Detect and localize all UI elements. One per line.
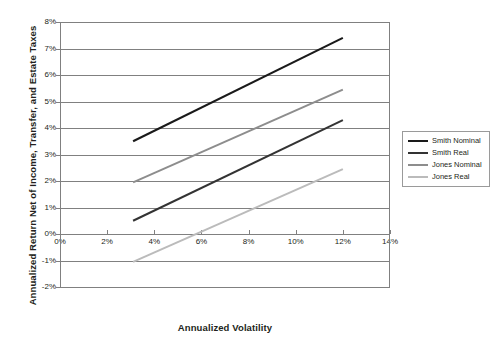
legend-item[interactable]: Jones Real <box>405 171 487 183</box>
y-tick-label: 4% <box>30 124 56 132</box>
y-tick-label: -2% <box>30 283 56 291</box>
tick-mark-x <box>390 230 391 234</box>
plot-area <box>60 22 390 287</box>
y-tick-label: 3% <box>30 151 56 159</box>
series-lines <box>60 22 390 287</box>
y-tick-label: 6% <box>30 71 56 79</box>
series-line <box>133 38 343 141</box>
legend-swatch-line-icon <box>408 164 428 166</box>
legend-label: Jones Nominal <box>432 161 482 169</box>
y-tick-label: 8% <box>30 18 56 26</box>
grid-line-y <box>60 287 390 288</box>
legend-item[interactable]: Smith Nominal <box>405 135 487 147</box>
legend-label: Jones Real <box>432 173 470 181</box>
y-tick-label: -1% <box>30 257 56 265</box>
y-tick-label: 1% <box>30 204 56 212</box>
legend-item[interactable]: Smith Real <box>405 147 487 159</box>
legend-label: Smith Real <box>432 149 469 157</box>
legend-label: Smith Nominal <box>432 137 481 145</box>
legend-swatch-line-icon <box>408 140 428 142</box>
x-axis-title: Annualized Volatility <box>60 322 390 333</box>
legend-swatch-line-icon <box>408 152 428 154</box>
series-line <box>133 169 343 262</box>
y-tick-label: 0% <box>30 230 56 238</box>
y-tick-label: 2% <box>30 177 56 185</box>
chart-legend: Smith NominalSmith RealJones NominalJone… <box>402 131 490 187</box>
chart-container: Annualized Return Net of Income, Transfe… <box>0 0 494 348</box>
legend-swatch-line-icon <box>408 176 428 178</box>
y-tick-label: 7% <box>30 45 56 53</box>
y-axis-title: Annualized Return Net of Income, Transfe… <box>27 16 38 316</box>
legend-item[interactable]: Jones Nominal <box>405 159 487 171</box>
y-tick-label: 5% <box>30 98 56 106</box>
tick-mark-y <box>56 287 60 288</box>
